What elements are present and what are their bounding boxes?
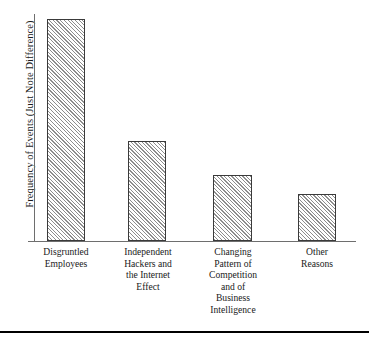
bar-changing-pattern-competition bbox=[213, 175, 252, 241]
x-tick-label-2-line-4: Business bbox=[193, 292, 273, 304]
x-tick-label-3-line-0: Other bbox=[277, 246, 357, 258]
bar-disgruntled-employees bbox=[47, 19, 85, 241]
x-tick-label-2-line-3: and of bbox=[193, 281, 273, 293]
bottom-divider-rule bbox=[0, 331, 369, 333]
x-tick-label-3: Other Reasons bbox=[277, 246, 357, 269]
x-tick-label-2-line-2: Competition bbox=[193, 269, 273, 281]
x-axis-line bbox=[28, 241, 356, 242]
x-tick-label-0: Disgruntled Employees bbox=[26, 246, 106, 269]
x-tick-label-1-line-0: Independent bbox=[108, 246, 188, 258]
y-axis-line bbox=[34, 14, 35, 242]
x-tick-label-2-line-5: Intelligence bbox=[193, 304, 273, 316]
y-axis-label: Frequency of Events (Just Note Differenc… bbox=[22, 0, 38, 230]
y-axis-label-container: Frequency of Events (Just Note Differenc… bbox=[8, 8, 28, 240]
x-tick-label-1-line-2: the Internet bbox=[108, 269, 188, 281]
x-tick-label-1: Independent Hackers and the Internet Eff… bbox=[108, 246, 188, 292]
x-tick-label-0-line-1: Employees bbox=[26, 258, 106, 270]
x-tick-label-2-line-0: Changing bbox=[193, 246, 273, 258]
bar-independent-hackers bbox=[128, 141, 166, 241]
bar-other-reasons bbox=[298, 194, 336, 241]
x-tick-label-3-line-1: Reasons bbox=[277, 258, 357, 270]
x-tick-label-1-line-3: Effect bbox=[108, 281, 188, 293]
x-tick-label-2-line-1: Pattern of bbox=[193, 258, 273, 270]
x-tick-label-1-line-1: Hackers and bbox=[108, 258, 188, 270]
x-tick-label-0-line-0: Disgruntled bbox=[26, 246, 106, 258]
x-tick-label-2: Changing Pattern of Competition and of B… bbox=[193, 246, 273, 316]
bar-chart-figure: Frequency of Events (Just Note Differenc… bbox=[0, 0, 369, 343]
